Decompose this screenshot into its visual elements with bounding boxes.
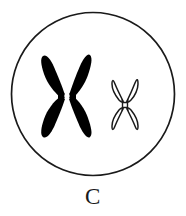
small-chromosome-centromere <box>123 103 128 108</box>
figure-caption: C <box>0 183 186 211</box>
large-chromosome-centromere <box>64 93 69 98</box>
cell-membrane <box>12 13 175 176</box>
chromosome-figure: C <box>0 0 186 216</box>
